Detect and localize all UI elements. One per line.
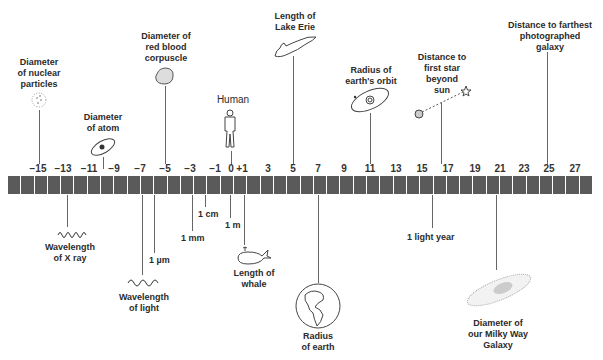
bar-segment bbox=[447, 176, 459, 194]
axis-tick: 19 bbox=[469, 163, 480, 174]
leader-light-year bbox=[432, 195, 433, 228]
atom-icon bbox=[88, 136, 118, 158]
axis-tick: −1 bbox=[209, 163, 220, 174]
bar-segment bbox=[527, 176, 539, 194]
red-blood-cell-icon bbox=[153, 66, 177, 86]
bar-segment bbox=[407, 176, 419, 194]
bar-segment bbox=[580, 176, 592, 194]
bar-segment bbox=[367, 176, 379, 194]
axis-tick: 17 bbox=[442, 163, 453, 174]
label-1um: 1 µm bbox=[149, 255, 170, 265]
leader-first-star bbox=[441, 103, 442, 164]
axis-tick: 13 bbox=[390, 163, 401, 174]
earth-orbit-icon bbox=[348, 86, 392, 114]
bar-segment bbox=[154, 176, 166, 194]
bar-segment bbox=[301, 176, 313, 194]
axis-tick: 0 bbox=[228, 163, 234, 174]
label-red-blood-corpuscle: Diameter of red blood corpuscle bbox=[134, 31, 198, 64]
bar-segment bbox=[247, 176, 259, 194]
bar-segment bbox=[101, 176, 113, 194]
whale-icon bbox=[236, 244, 272, 266]
axis-tick: 23 bbox=[518, 163, 529, 174]
leader-1mm bbox=[192, 195, 193, 231]
label-whale: Length of whale bbox=[228, 268, 280, 290]
axis-tick: −3 bbox=[184, 163, 195, 174]
leader-light bbox=[142, 195, 143, 275]
bar-segment bbox=[128, 176, 140, 194]
leader-1um bbox=[154, 195, 155, 253]
axis-tick: −5 bbox=[159, 163, 170, 174]
axis-tick: −15 bbox=[30, 163, 47, 174]
label-farthest-galaxy: Distance to farthest photographed galaxy bbox=[504, 20, 596, 53]
axis-tick: −13 bbox=[55, 163, 72, 174]
bar-segment bbox=[274, 176, 286, 194]
axis-tick: +1 bbox=[236, 163, 247, 174]
label-1mm: 1 mm bbox=[181, 233, 205, 243]
bar-segment bbox=[500, 176, 512, 194]
label-nuclear-particles: Diameter of nuclear particles bbox=[8, 57, 70, 90]
axis-tick: 15 bbox=[416, 163, 427, 174]
bar-segment bbox=[234, 176, 246, 194]
bar-segment bbox=[380, 176, 392, 194]
axis-tick: −7 bbox=[134, 163, 145, 174]
axis-tick: 3 bbox=[265, 163, 271, 174]
axis-tick: −9 bbox=[108, 163, 119, 174]
axis-tick: 25 bbox=[543, 163, 554, 174]
label-earth-radius: Radius of earth bbox=[292, 331, 344, 353]
bar-segment bbox=[473, 176, 485, 194]
axis-tick: 27 bbox=[569, 163, 580, 174]
leader-1m bbox=[230, 195, 231, 218]
bar-segment bbox=[194, 176, 206, 194]
axis-tick: 21 bbox=[494, 163, 505, 174]
leader-atom bbox=[103, 157, 104, 169]
bar-segment bbox=[74, 176, 86, 194]
xray-wave-icon bbox=[57, 230, 89, 240]
log-scale-bar bbox=[8, 176, 592, 194]
leader-orbit bbox=[370, 113, 371, 164]
bar-segment bbox=[314, 176, 326, 194]
bar-segment bbox=[394, 176, 406, 194]
bar-segment bbox=[566, 176, 578, 194]
bar-segment bbox=[261, 176, 273, 194]
axis-tick: 11 bbox=[365, 163, 376, 174]
bar-segment bbox=[287, 176, 299, 194]
label-lake-erie: Length of Lake Erie bbox=[268, 11, 322, 33]
bar-segment bbox=[340, 176, 352, 194]
label-1cm: 1 cm bbox=[198, 209, 219, 219]
leader-rbc bbox=[165, 86, 166, 164]
bar-segment bbox=[48, 176, 60, 194]
bar-segment bbox=[460, 176, 472, 194]
axis-tick: −11 bbox=[81, 163, 97, 174]
label-light-year: 1 light year bbox=[407, 232, 455, 242]
bar-segment bbox=[540, 176, 552, 194]
bar-segment bbox=[181, 176, 193, 194]
bar-segment bbox=[21, 176, 33, 194]
bar-segment bbox=[354, 176, 366, 194]
bar-segment bbox=[35, 176, 47, 194]
axis-tick: 7 bbox=[315, 163, 321, 174]
bar-segment bbox=[61, 176, 73, 194]
leader-1cm bbox=[205, 195, 206, 207]
bar-segment bbox=[420, 176, 432, 194]
bar-segment bbox=[513, 176, 525, 194]
bar-segment bbox=[487, 176, 499, 194]
bar-segment bbox=[168, 176, 180, 194]
leader-whale bbox=[244, 195, 245, 245]
label-atom: Diameter of atom bbox=[78, 112, 128, 134]
leader-xray bbox=[67, 195, 68, 227]
bar-segment bbox=[327, 176, 339, 194]
lake-erie-icon bbox=[272, 34, 318, 60]
axis-tick: 9 bbox=[341, 163, 347, 174]
milky-way-galaxy-icon bbox=[463, 268, 535, 312]
bar-segment bbox=[221, 176, 233, 194]
light-wave-icon bbox=[127, 277, 163, 289]
axis-tick: 5 bbox=[290, 163, 296, 174]
bar-segment bbox=[141, 176, 153, 194]
leader-erie bbox=[293, 56, 294, 164]
bar-segment bbox=[88, 176, 100, 194]
label-earth-orbit: Radius of earth's orbit bbox=[340, 65, 402, 87]
label-light: Wavelength of light bbox=[116, 292, 172, 314]
bar-segment bbox=[8, 176, 20, 194]
leader-farthest-galaxy bbox=[547, 52, 548, 164]
bar-segment bbox=[207, 176, 219, 194]
